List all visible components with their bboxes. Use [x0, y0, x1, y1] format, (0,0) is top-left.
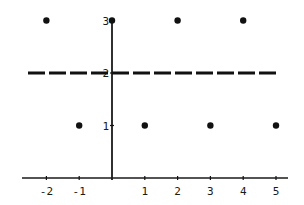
- y-tick-label: 1: [102, 120, 109, 133]
- x-tick-label: 1: [141, 185, 148, 198]
- x-tick-label: 4: [240, 185, 247, 198]
- data-point: [273, 122, 279, 128]
- data-point: [142, 122, 148, 128]
- scatter-chart: -2-112345 123: [0, 0, 304, 205]
- x-tick-label: -1: [73, 185, 86, 198]
- x-tick-group: -2-112345: [40, 176, 280, 198]
- data-point: [240, 17, 246, 23]
- x-tick-label: 2: [174, 185, 181, 198]
- chart-canvas: -2-112345 123: [0, 0, 304, 205]
- data-point: [174, 17, 180, 23]
- x-tick-label: 3: [207, 185, 214, 198]
- x-tick-label: 5: [273, 185, 280, 198]
- y-tick-label: 3: [102, 15, 109, 28]
- x-tick-label: -2: [40, 185, 53, 198]
- data-point: [43, 17, 49, 23]
- data-point: [207, 122, 213, 128]
- data-point: [76, 122, 82, 128]
- data-point: [109, 17, 115, 23]
